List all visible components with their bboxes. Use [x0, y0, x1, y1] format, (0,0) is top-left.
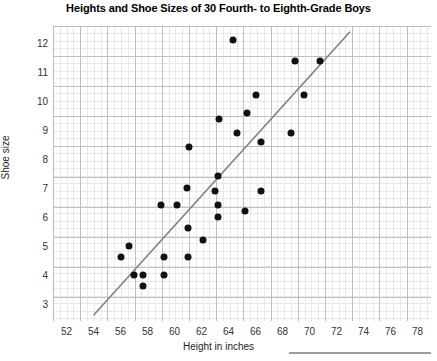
data-point: [185, 254, 192, 261]
data-point: [174, 202, 181, 209]
data-point: [158, 202, 165, 209]
data-point: [216, 115, 223, 122]
y-axis-title: Shoe size: [0, 136, 11, 180]
y-tick-label: 7: [8, 182, 48, 193]
data-point: [214, 213, 221, 220]
y-tick-label: 11: [8, 67, 48, 78]
x-tick-label: 76: [385, 326, 396, 337]
x-tick-label: 54: [88, 326, 99, 337]
x-tick-label: 64: [223, 326, 234, 337]
data-point: [186, 144, 193, 151]
x-tick-label: 68: [277, 326, 288, 337]
data-point: [183, 184, 190, 191]
data-point: [287, 130, 294, 137]
x-tick-label: 66: [250, 326, 261, 337]
x-tick-label: 70: [304, 326, 315, 337]
x-axis-title: Height in inches: [0, 341, 437, 352]
x-tick-label: 58: [142, 326, 153, 337]
data-point: [233, 130, 240, 137]
x-tick-label: 52: [61, 326, 72, 337]
data-point: [214, 173, 221, 180]
data-point: [160, 254, 167, 261]
data-point: [257, 187, 264, 194]
y-tick-label: 5: [8, 240, 48, 251]
data-point: [199, 237, 206, 244]
bottom-rule: [289, 352, 431, 354]
y-tick-label: 10: [8, 96, 48, 107]
y-tick-label: 3: [8, 298, 48, 309]
x-tick-label: 78: [412, 326, 423, 337]
data-point: [185, 225, 192, 232]
data-point: [244, 109, 251, 116]
data-point: [140, 271, 147, 278]
plot-area: [53, 26, 431, 321]
data-point: [117, 254, 124, 261]
x-tick-label: 56: [115, 326, 126, 337]
x-tick-label: 60: [169, 326, 180, 337]
data-point: [229, 37, 236, 44]
data-point: [160, 271, 167, 278]
data-point: [125, 242, 132, 249]
y-tick-label: 9: [8, 125, 48, 136]
chart-title: Heights and Shoe Sizes of 30 Fourth- to …: [0, 2, 437, 14]
data-point: [241, 208, 248, 215]
x-tick-label: 72: [331, 326, 342, 337]
data-point: [214, 202, 221, 209]
x-axis-ticks: 5254565860626466687072747678: [53, 326, 431, 342]
data-point: [301, 92, 308, 99]
data-point: [212, 187, 219, 194]
y-tick-label: 8: [8, 154, 48, 165]
x-tick-label: 74: [358, 326, 369, 337]
data-points: [53, 26, 431, 321]
x-tick-label: 62: [196, 326, 207, 337]
chart-screenshot: Heights and Shoe Sizes of 30 Fourth- to …: [0, 0, 437, 361]
data-point: [252, 92, 259, 99]
y-axis-ticks: 3456789101112: [6, 26, 48, 321]
y-tick-label: 6: [8, 211, 48, 222]
data-point: [257, 138, 264, 145]
data-point: [317, 57, 324, 64]
data-point: [131, 271, 138, 278]
data-point: [291, 57, 298, 64]
y-tick-label: 4: [8, 269, 48, 280]
data-point: [140, 283, 147, 290]
y-tick-label: 12: [8, 38, 48, 49]
